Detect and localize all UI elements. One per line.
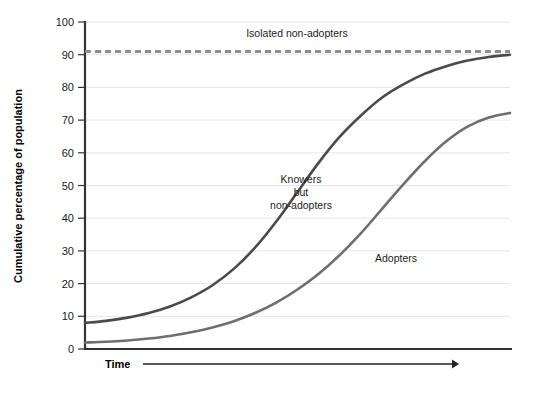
y-tick-label-60: 60 [62, 147, 74, 159]
annotation-knowers-but-non-adopters: Knowers but non-adopters [270, 173, 332, 211]
annotation-knowers-line-1: Knowers [281, 173, 322, 185]
diffusion-curve-chart: 100 90 80 70 60 50 40 30 20 10 0 Cumulat… [0, 0, 539, 393]
annotation-isolated-non-adopters: Isolated non-adopters [246, 27, 348, 39]
time-arrow-icon [143, 360, 459, 369]
x-axis-title: Time [105, 358, 130, 370]
y-tick-label-50: 50 [62, 180, 74, 192]
y-tick-label-10: 10 [62, 310, 74, 322]
y-tick-label-0: 0 [68, 343, 74, 355]
y-tick-label-40: 40 [62, 212, 74, 224]
y-tick-label-20: 20 [62, 278, 74, 290]
annotation-knowers-line-3: non-adopters [270, 199, 332, 211]
y-tick-label-80: 80 [62, 81, 74, 93]
y-axis-title: Cumulative percentage of population [12, 89, 24, 283]
y-tick-label-90: 90 [62, 49, 74, 61]
y-tick-label-30: 30 [62, 245, 74, 257]
y-tick-label-70: 70 [62, 114, 74, 126]
annotation-knowers-line-2: but [294, 186, 309, 198]
series-line-adopters [85, 113, 510, 343]
chart-container: 100 90 80 70 60 50 40 30 20 10 0 Cumulat… [0, 0, 539, 393]
annotation-adopters: Adopters [375, 252, 417, 264]
y-tick-label-100: 100 [56, 16, 74, 28]
y-tick-labels: 100 90 80 70 60 50 40 30 20 10 0 [56, 16, 74, 355]
